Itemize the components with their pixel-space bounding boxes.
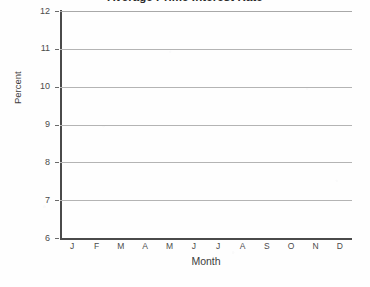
x-axis-tick-label: S	[259, 241, 275, 251]
chart-figure: Average Prime Interest Rate 6789101112 J…	[0, 0, 370, 287]
x-axis-tick-label: A	[137, 241, 153, 251]
y-axis-tick-mark	[55, 11, 59, 12]
gridline	[60, 87, 352, 88]
y-axis-tick-label: 10	[24, 82, 50, 91]
plot-area	[60, 11, 352, 238]
y-axis-tick-label: 7	[24, 196, 50, 205]
gridline	[60, 200, 352, 201]
x-axis-tick-label: J	[186, 241, 202, 251]
y-axis-title: Percent	[12, 71, 23, 104]
chart-title: Average Prime Interest Rate	[0, 0, 370, 3]
y-axis-tick-label: 12	[24, 7, 50, 16]
y-axis-tick-label: 6	[24, 234, 50, 243]
x-axis-spine	[60, 238, 352, 240]
x-axis-tick-label: A	[235, 241, 251, 251]
gridline	[60, 125, 352, 126]
x-axis-tick-label: N	[308, 241, 324, 251]
y-axis-tick-mark	[55, 49, 59, 50]
x-axis-title: Month	[60, 255, 352, 267]
x-axis-tick-label: J	[64, 241, 80, 251]
gridline	[60, 49, 352, 50]
x-axis-tick-label: F	[89, 241, 105, 251]
y-axis-tick-label: 8	[24, 158, 50, 167]
x-axis-tick-label: M	[162, 241, 178, 251]
x-axis-tick-label: M	[113, 241, 129, 251]
x-axis-tick-label: J	[210, 241, 226, 251]
gridline	[60, 162, 352, 163]
gridline	[60, 11, 352, 12]
y-axis-tick-mark	[55, 125, 59, 126]
x-axis-tick-label: O	[283, 241, 299, 251]
y-axis-tick-label: 11	[24, 44, 50, 53]
y-axis-tick-mark	[55, 200, 59, 201]
y-axis-tick-mark	[55, 87, 59, 88]
y-axis-tick-mark	[55, 238, 59, 239]
x-axis-tick-label: D	[332, 241, 348, 251]
y-axis-tick-mark	[55, 162, 59, 163]
y-axis-tick-label: 9	[24, 120, 50, 129]
